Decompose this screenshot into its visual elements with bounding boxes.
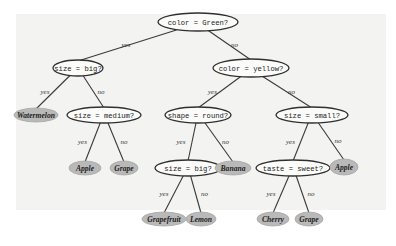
question-label: size = big?: [164, 165, 211, 173]
leaf-node: Grape: [110, 161, 138, 175]
question-label: size = medium?: [74, 112, 134, 120]
edge-label-no: no: [308, 190, 316, 198]
edge-label-no: no: [201, 190, 209, 198]
leaf-node: Grape: [295, 212, 323, 226]
edge-label-yes: yes: [77, 138, 87, 146]
leaf-node: Grapefruit: [142, 212, 186, 226]
question-node: color = Green?: [158, 13, 238, 31]
question-node: size = small?: [276, 107, 348, 123]
leaf-label: Grape: [114, 164, 134, 173]
leaf-label: Apple: [75, 164, 95, 173]
edge-label-no: no: [98, 88, 106, 96]
leaf-node: Cherry: [257, 212, 289, 226]
decision-tree: yesnoyesnoyesnoyesnoyesnoyesnoyesnoyesno…: [0, 0, 396, 246]
leaf-label: Apple: [334, 163, 354, 172]
edge-label-yes: yes: [176, 138, 186, 146]
leaf-node: Banana: [215, 161, 251, 175]
edge-label-yes: yes: [285, 138, 295, 146]
question-label: size = big?: [54, 65, 101, 73]
edge-label-yes: yes: [121, 41, 131, 49]
edge-label-no: no: [222, 138, 230, 146]
leaf-label: Banana: [220, 164, 246, 173]
tree-edge-yes: [188, 122, 196, 161]
leaf-node: Apple: [330, 159, 358, 175]
edge-label-no: no: [231, 41, 239, 49]
edge-label-yes: yes: [207, 88, 217, 96]
question-label: taste = sweet?: [263, 165, 323, 173]
question-node: size = big?: [53, 60, 103, 76]
tree-edge-yes: [198, 76, 241, 108]
question-node: size = big?: [155, 160, 221, 176]
question-label: color = Green?: [168, 19, 228, 27]
leaf-node: Apple: [69, 161, 101, 175]
question-node: color = yellow?: [213, 59, 289, 77]
tree-edge-no: [190, 175, 201, 213]
leaf-node: Watermelon: [14, 108, 58, 122]
question-node: shape = round?: [165, 107, 231, 123]
leaf-label: Lemon: [189, 215, 212, 224]
leaf-label: Grape: [299, 215, 319, 224]
edge-label-yes: yes: [159, 190, 169, 198]
leaf-node: Lemon: [186, 212, 216, 226]
edge-label-no: no: [121, 138, 129, 146]
edge-label-no: no: [335, 137, 343, 145]
question-node: size = medium?: [67, 107, 141, 123]
tree-edge-yes: [293, 122, 309, 161]
question-label: shape = round?: [168, 112, 228, 120]
tree-edge-no: [208, 30, 251, 60]
question-node: taste = sweet?: [256, 160, 330, 176]
tree-edge-no: [262, 76, 312, 108]
tree-edge-yes: [85, 122, 101, 162]
edge-label-yes: yes: [266, 190, 276, 198]
question-label: color = yellow?: [219, 65, 284, 73]
question-label: size = small?: [284, 112, 340, 120]
leaf-label: Grapefruit: [147, 215, 181, 224]
leaf-label: Watermelon: [17, 111, 55, 120]
edge-label-no: no: [288, 88, 296, 96]
leaf-label: Cherry: [262, 215, 285, 224]
edge-label-yes: yes: [40, 88, 50, 96]
